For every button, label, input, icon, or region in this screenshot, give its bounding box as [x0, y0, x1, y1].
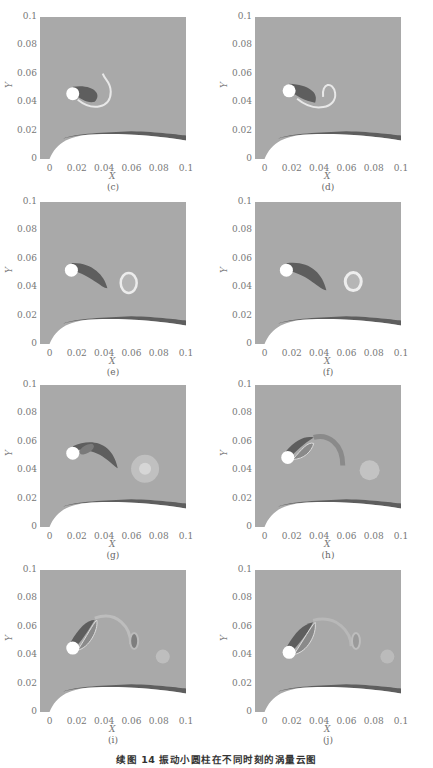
x-tick-label: 0.02	[62, 163, 92, 173]
y-tick-label: 0.08	[222, 39, 252, 49]
y-tick-label: 0.04	[7, 649, 37, 659]
y-tick-label: 0	[7, 521, 37, 531]
y-tick-label: 0.06	[222, 436, 252, 446]
x-axis-label: X	[109, 724, 115, 734]
y-tick-label: 0	[7, 706, 37, 716]
x-tick-label: 0	[35, 163, 65, 173]
y-tick-label: 0.04	[222, 96, 252, 106]
vorticity-field	[255, 202, 401, 344]
y-tick-label: 0.02	[7, 678, 37, 688]
vorticity-field	[255, 385, 401, 527]
x-tick-label: 0	[35, 716, 65, 726]
cylinder	[66, 87, 79, 100]
x-tick-label: 0.08	[359, 348, 389, 358]
y-tick-label: 0.08	[222, 407, 252, 417]
x-tick-label: 0.1	[171, 531, 201, 541]
x-tick-label: 0	[35, 531, 65, 541]
y-tick-label: 0.02	[7, 310, 37, 320]
x-tick-label: 0.08	[359, 531, 389, 541]
vorticity-contour-plot	[255, 17, 401, 159]
x-axis-label: X	[324, 356, 330, 366]
cylinder	[65, 264, 78, 277]
x-tick-label: 0.1	[171, 716, 201, 726]
vorticity-contour-plot	[40, 202, 186, 344]
y-tick-label: 0.02	[222, 493, 252, 503]
y-tick-label: 0	[222, 706, 252, 716]
y-axis-label: Y	[219, 267, 229, 273]
y-tick-label: 0.04	[7, 464, 37, 474]
x-tick-label: 0.1	[386, 348, 416, 358]
y-tick-label: 0	[222, 338, 252, 348]
vorticity-contour-plot	[40, 385, 186, 527]
panel-h: 00.020.040.060.080.100.020.040.060.080.1…	[216, 368, 432, 553]
vorticity-contour-plot	[255, 385, 401, 527]
y-axis-label: Y	[219, 635, 229, 641]
y-tick-label: 0.04	[7, 281, 37, 291]
x-axis-label: X	[109, 171, 115, 181]
x-tick-label: 0.08	[144, 716, 174, 726]
cylinder	[66, 642, 79, 655]
y-axis-label: Y	[4, 267, 14, 273]
x-tick-label: 0.06	[116, 531, 146, 541]
y-tick-label: 0.02	[7, 125, 37, 135]
y-tick-label: 0.04	[222, 281, 252, 291]
x-tick-label: 0.06	[116, 163, 146, 173]
x-tick-label: 0.08	[359, 716, 389, 726]
vorticity-contour-plot	[40, 17, 186, 159]
x-tick-label: 0.06	[331, 531, 361, 541]
x-tick-label: 0	[250, 716, 280, 726]
x-tick-label: 0.06	[331, 716, 361, 726]
x-tick-label: 0.1	[171, 348, 201, 358]
cylinder	[280, 264, 293, 277]
vorticity-contour-plot	[255, 570, 401, 712]
x-tick-label: 0.02	[62, 348, 92, 358]
y-tick-label: 0.06	[7, 436, 37, 446]
y-tick-label: 0.06	[222, 68, 252, 78]
x-tick-label: 0.02	[277, 716, 307, 726]
panel-c: 00.020.040.060.080.100.020.040.060.080.1…	[0, 0, 216, 185]
y-tick-label: 0.04	[222, 464, 252, 474]
y-tick-label: 0.1	[222, 379, 252, 389]
y-axis-label: Y	[219, 82, 229, 88]
panel-j: 00.020.040.060.080.100.020.040.060.080.1…	[216, 553, 432, 738]
panel-d: 00.020.040.060.080.100.020.040.060.080.1…	[216, 0, 432, 185]
panel-e: 00.020.040.060.080.100.020.040.060.080.1…	[0, 185, 216, 370]
y-axis-label: Y	[4, 450, 14, 456]
x-tick-label: 0.06	[116, 716, 146, 726]
y-tick-label: 0.08	[7, 224, 37, 234]
y-tick-label: 0.08	[222, 224, 252, 234]
panel-f: 00.020.040.060.080.100.020.040.060.080.1…	[216, 185, 432, 370]
cylinder	[66, 447, 79, 460]
vorticity-field	[255, 570, 401, 712]
y-tick-label: 0.06	[7, 621, 37, 631]
y-tick-label: 0.06	[222, 253, 252, 263]
subfigure-label: (j)	[308, 735, 348, 745]
x-axis-label: X	[324, 724, 330, 734]
x-tick-label: 0.02	[62, 716, 92, 726]
y-tick-label: 0	[7, 153, 37, 163]
y-tick-label: 0	[222, 153, 252, 163]
y-tick-label: 0.02	[7, 493, 37, 503]
x-axis-label: X	[324, 171, 330, 181]
figure-caption: 续图 14 振动小圆柱在不同时刻的涡量云图	[0, 752, 433, 766]
y-tick-label: 0	[7, 338, 37, 348]
x-tick-label: 0	[250, 348, 280, 358]
y-axis-label: Y	[4, 635, 14, 641]
vorticity-contour-plot	[255, 202, 401, 344]
x-tick-label: 0.08	[144, 531, 174, 541]
x-tick-label: 0.02	[277, 348, 307, 358]
x-axis-label: X	[109, 356, 115, 366]
x-tick-label: 0	[250, 163, 280, 173]
cylinder	[283, 646, 296, 659]
vorticity-field	[40, 202, 186, 344]
cylinder	[283, 84, 296, 97]
x-tick-label: 0.1	[386, 716, 416, 726]
y-tick-label: 0.02	[222, 678, 252, 688]
x-tick-label: 0.02	[277, 163, 307, 173]
x-axis-label: X	[324, 539, 330, 549]
vorticity-field	[255, 17, 401, 159]
panel-i: 00.020.040.060.080.100.020.040.060.080.1…	[0, 553, 216, 738]
vorticity-field	[40, 385, 186, 527]
y-tick-label: 0.02	[222, 310, 252, 320]
y-tick-label: 0.04	[7, 96, 37, 106]
